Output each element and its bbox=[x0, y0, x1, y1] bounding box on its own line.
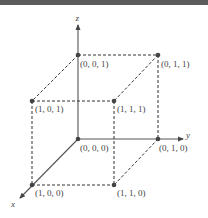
vertex-label-100: (1, 0, 0) bbox=[35, 188, 64, 198]
vertex-label-011: (0, 1, 1) bbox=[161, 59, 190, 69]
vertex-001 bbox=[76, 53, 81, 58]
vertices bbox=[30, 53, 161, 188]
vertex-010 bbox=[156, 137, 161, 142]
vertex-label-010: (0, 1, 0) bbox=[159, 143, 188, 153]
vertex-011 bbox=[156, 53, 161, 58]
cube-diagram: z y x (0, 0, 0) (0, 1, 0) (1, 0, 0) (1, … bbox=[0, 0, 208, 218]
vertex-label-110: (1, 1, 0) bbox=[117, 188, 146, 198]
y-axis-label: y bbox=[185, 130, 190, 140]
x-axis-label: x bbox=[10, 199, 15, 209]
vertex-label-101: (1, 0, 1) bbox=[35, 104, 64, 114]
edge-011-111 bbox=[114, 55, 158, 101]
vertex-label-000: (0, 0, 0) bbox=[80, 143, 109, 153]
edge-010-110 bbox=[114, 139, 158, 185]
vertex-label-111: (1, 1, 1) bbox=[117, 104, 146, 114]
vertex-111 bbox=[112, 99, 117, 104]
vertex-110 bbox=[112, 183, 117, 188]
vertex-label-001: (0, 0, 1) bbox=[80, 59, 109, 69]
vertex-101 bbox=[30, 99, 35, 104]
vertex-100 bbox=[30, 183, 35, 188]
cube-edges bbox=[32, 55, 158, 185]
edge-001-101 bbox=[32, 55, 78, 101]
vertex-000 bbox=[76, 137, 81, 142]
z-axis-label: z bbox=[75, 13, 80, 23]
